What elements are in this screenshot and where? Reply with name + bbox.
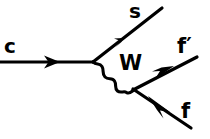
f-arrowhead-icon — [148, 96, 170, 119]
label-w-boson: W — [119, 53, 142, 74]
f-prime-line — [133, 57, 197, 90]
f-prime-stroke — [133, 57, 197, 90]
label-f: f — [181, 101, 190, 122]
label-c-quark: c — [4, 36, 16, 56]
feynman-diagram-canvas — [0, 0, 210, 139]
label-s-quark: s — [129, 1, 141, 21]
label-f-prime: f′ — [177, 36, 192, 57]
feynman-diagram: c s W f′ f — [0, 0, 210, 139]
